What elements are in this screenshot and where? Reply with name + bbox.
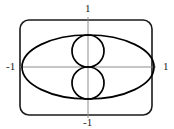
axis-label-bottom: -1 [83,117,92,128]
axis-label-left: -1 [6,61,15,72]
axis-label-right: 1 [163,61,169,72]
math-figure: 1 -1 1 -1 [0,0,174,129]
figure-canvas [0,0,174,129]
axis-label-top: 1 [85,3,91,14]
